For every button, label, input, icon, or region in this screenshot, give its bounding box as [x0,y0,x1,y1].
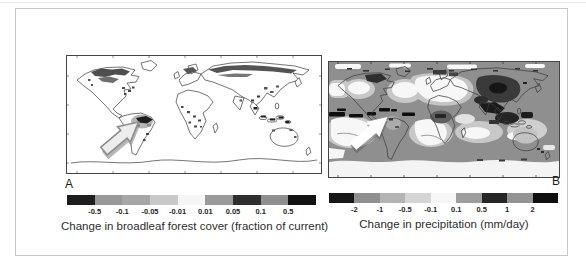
colorbar-segment [482,193,507,203]
colorbar-tick-label: 0.1 [451,205,461,214]
colorbar-ticks-precipitation: -2-1-0.5-0.10.10.512 [329,205,558,214]
map-forest-cover-change [66,55,322,174]
figure-frame: A B -0.5-0.1-0.05-0.010.010.050.10.5 -2-… [15,8,568,256]
colorbar-segment [261,195,289,205]
panel-label-a: A [65,178,73,190]
colorbar-tick-label: 1 [505,205,509,214]
panel-label-b: B [552,175,560,187]
colorbar-tick-label: -0.1 [116,207,129,216]
colorbar-tick-label: -0.1 [424,205,437,214]
colorbar-tick-label: -0.5 [399,205,412,214]
colorbar-segment [122,195,150,205]
colorbar-precipitation [329,193,558,203]
caption-forest-cover: Change in broadleaf forest cover (fracti… [61,220,321,232]
colorbar-tick-label: -0.5 [88,207,101,216]
colorbar-segment [431,193,456,203]
colorbar-segment [533,193,558,203]
map-precipitation-change [328,61,560,178]
colorbar-tick-label: -2 [351,205,358,214]
colorbar-segment [507,193,532,203]
colorbar-tick-label: -0.01 [169,207,186,216]
colorbar-segment [95,195,123,205]
colorbar-ticks-forest-cover: -0.5-0.1-0.05-0.010.010.050.10.5 [67,207,316,216]
colorbar-tick-label: 0.1 [255,207,265,216]
colorbar-tick-label: 0.5 [283,207,293,216]
colorbar-tick-label: 0.5 [476,205,486,214]
colorbar-segment [178,195,206,205]
colorbar-tick-label: -1 [377,205,384,214]
window-edge-line [0,2,586,3]
colorbar-tick-label: 2 [530,205,534,214]
colorbar-segment [329,193,354,203]
colorbar-segment [456,193,481,203]
colorbar-forest-cover [67,195,316,205]
colorbar-segment [288,195,316,205]
colorbar-segment [150,195,178,205]
colorbar-tick-label: 0.05 [226,207,241,216]
antarctica-white-band [329,160,559,177]
colorbar-segment [233,195,261,205]
caption-precipitation: Change in precipitation (mm/day) [324,218,564,230]
colorbar-segment [67,195,95,205]
colorbar-tick-label: -0.05 [141,207,158,216]
colorbar-segment [205,195,233,205]
colorbar-segment [405,193,430,203]
colorbar-tick-label: 0.01 [198,207,213,216]
colorbar-segment [354,193,379,203]
colorbar-segment [380,193,405,203]
antarctica-coastline [71,159,317,163]
